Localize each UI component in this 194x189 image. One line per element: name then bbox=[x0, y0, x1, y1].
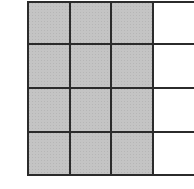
fraction-grid bbox=[28, 2, 194, 176]
shaded-cell bbox=[111, 44, 153, 88]
shaded-cell bbox=[70, 2, 111, 44]
shaded-cell bbox=[111, 2, 153, 44]
grid-vertical-line bbox=[152, 1, 154, 176]
shaded-cell bbox=[70, 44, 111, 88]
grid-vertical-line bbox=[110, 1, 112, 176]
shaded-cell bbox=[28, 2, 70, 44]
shaded-cell bbox=[70, 88, 111, 132]
grid-vertical-line bbox=[27, 1, 29, 176]
shaded-cell bbox=[70, 132, 111, 175]
shaded-cell bbox=[111, 132, 153, 175]
grid-vertical-line bbox=[69, 1, 71, 176]
empty-cell bbox=[153, 88, 194, 132]
shaded-cell bbox=[28, 132, 70, 175]
shaded-cell bbox=[28, 44, 70, 88]
empty-cell bbox=[153, 132, 194, 175]
empty-cell bbox=[153, 2, 194, 44]
shaded-cell bbox=[111, 88, 153, 132]
diagram-canvas bbox=[0, 0, 194, 189]
empty-cell bbox=[153, 44, 194, 88]
shaded-cell bbox=[28, 88, 70, 132]
